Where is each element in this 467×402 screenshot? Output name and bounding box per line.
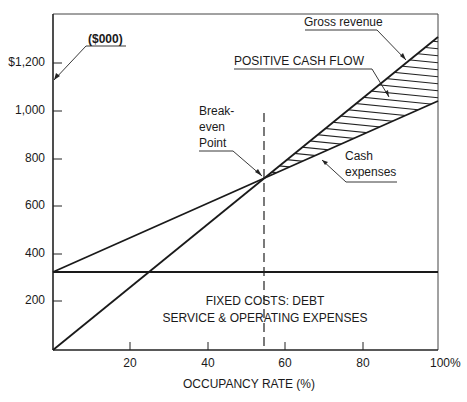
x-tick-100: 100% <box>430 356 461 370</box>
gross-revenue-label: Gross revenue <box>304 15 383 29</box>
breakeven-arrow-icon <box>255 169 262 176</box>
y-tick-800: 800 <box>0 151 45 165</box>
cash-expenses-label-line1: Cash <box>345 149 373 163</box>
positive-cash-flow-hatch <box>250 16 450 190</box>
y-ticks <box>53 63 62 301</box>
gross-revenue-arrow-icon <box>400 53 406 60</box>
unit-label: ($000) <box>88 32 123 46</box>
x-tick-60: 60 <box>265 356 305 370</box>
y-tick-200: 200 <box>0 293 45 307</box>
x-ticks <box>130 342 363 350</box>
positive-cash-flow-label: POSITIVE CASH FLOW <box>234 54 364 68</box>
x-axis-title: OCCUPANCY RATE (%) <box>183 377 315 391</box>
y-tick-400: 400 <box>0 246 45 260</box>
y-tick-600: 600 <box>0 198 45 212</box>
y-tick-1000: 1,000 <box>0 103 45 117</box>
y-tick-1200: $1,200 <box>0 55 45 69</box>
cash-expenses-label-line2: expenses <box>345 165 396 179</box>
x-tick-20: 20 <box>110 356 150 370</box>
fixed-costs-label-line2: SERVICE & OPERATING EXPENSES <box>150 311 380 325</box>
breakeven-label-line2: even <box>199 120 225 134</box>
fixed-costs-label-line1: FIXED COSTS: DEBT <box>150 294 380 308</box>
x-tick-80: 80 <box>343 356 383 370</box>
breakeven-label-line3: Point <box>199 136 226 150</box>
x-tick-40: 40 <box>188 356 228 370</box>
cash-expenses-line <box>53 101 438 272</box>
breakeven-label-line1: Break- <box>199 104 234 118</box>
